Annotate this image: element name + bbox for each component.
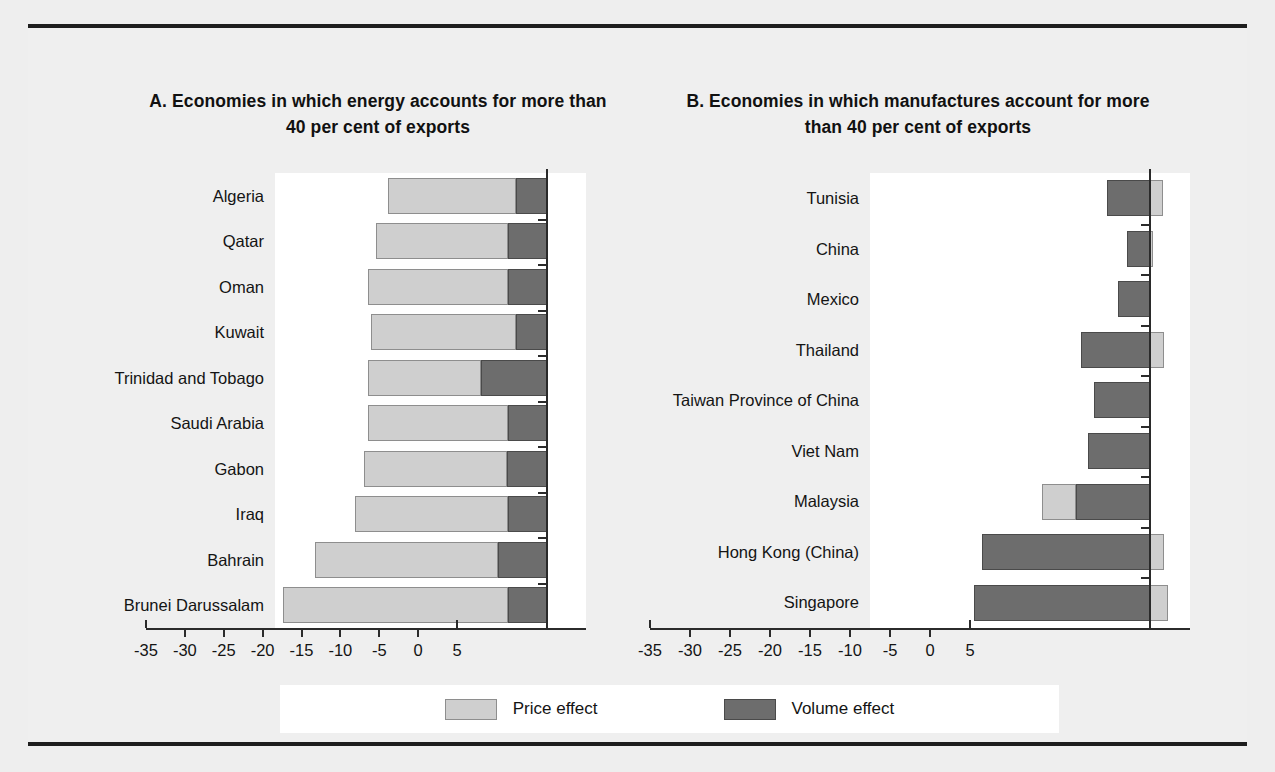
price-effect-bar bbox=[388, 178, 516, 214]
axis-tick-label: 5 bbox=[452, 641, 461, 660]
axis-tick-label: -5 bbox=[883, 641, 898, 660]
axis-tick-label: 0 bbox=[925, 641, 934, 660]
bar-row bbox=[870, 426, 1190, 477]
price-effect-bar bbox=[315, 542, 498, 578]
category-label: Saudi Arabia bbox=[170, 401, 264, 447]
category-label: Qatar bbox=[223, 219, 264, 265]
axis-tick bbox=[809, 628, 811, 637]
axis-tick bbox=[417, 628, 419, 637]
volume-effect-swatch bbox=[724, 699, 776, 720]
volume-effect-bar bbox=[481, 360, 547, 396]
volume-effect-label: Volume effect bbox=[792, 699, 895, 719]
category-label: Bahrain bbox=[207, 537, 264, 583]
axis-tick-label: 0 bbox=[414, 641, 423, 660]
axis-tick bbox=[339, 628, 341, 637]
category-label: Kuwait bbox=[214, 310, 264, 356]
bar-row bbox=[275, 173, 586, 219]
volume-effect-bar bbox=[508, 223, 547, 259]
category-label: Mexico bbox=[807, 277, 859, 323]
figure-frame: A. Economies in which energy accounts fo… bbox=[28, 24, 1247, 746]
price-effect-swatch bbox=[445, 699, 497, 720]
bar-row bbox=[275, 446, 586, 492]
volume-effect-bar bbox=[507, 451, 547, 487]
price-effect-bar bbox=[283, 587, 508, 623]
panel-a-chart: AlgeriaQatarOmanKuwaitTrinidad and Tobag… bbox=[146, 173, 586, 628]
bar-row bbox=[870, 577, 1190, 628]
volume-effect-bar bbox=[1088, 433, 1150, 469]
axis-tick bbox=[145, 620, 147, 628]
category-label: Trinidad and Tobago bbox=[114, 355, 264, 401]
volume-effect-bar bbox=[516, 178, 547, 214]
panel-b-chart: TunisiaChinaMexicoThailandTaiwan Provinc… bbox=[650, 173, 1190, 628]
bar-row bbox=[275, 219, 586, 265]
price-effect-bar bbox=[1150, 585, 1168, 621]
axis-tick bbox=[889, 628, 891, 637]
panel-b-title: B. Economies in which manufactures accou… bbox=[668, 88, 1168, 140]
bar-row bbox=[870, 375, 1190, 426]
axis-tick bbox=[849, 628, 851, 637]
volume-effect-bar bbox=[508, 587, 547, 623]
legend-item-price: Price effect bbox=[445, 699, 598, 720]
category-label: Algeria bbox=[213, 173, 264, 219]
bar-row bbox=[870, 274, 1190, 325]
axis-tick-label: -20 bbox=[251, 641, 275, 660]
panel-a-axis: -35-30-25-20-15-10-505 bbox=[146, 628, 586, 674]
category-label: Taiwan Province of China bbox=[673, 378, 859, 424]
volume-effect-bar bbox=[508, 405, 547, 441]
panel-b-axis: -35-30-25-20-15-10-505 bbox=[650, 628, 1190, 674]
volume-effect-bar bbox=[1118, 281, 1150, 317]
volume-effect-bar bbox=[508, 496, 547, 532]
panel-b-plot-area bbox=[870, 173, 1190, 628]
axis-tick bbox=[223, 628, 225, 637]
axis-tick bbox=[184, 628, 186, 637]
price-effect-bar bbox=[376, 223, 508, 259]
axis-tick bbox=[929, 628, 931, 637]
bar-row bbox=[275, 492, 586, 538]
panel-b-category-labels: TunisiaChinaMexicoThailandTaiwan Provinc… bbox=[650, 173, 870, 628]
category-label: Gabon bbox=[214, 446, 264, 492]
bar-row bbox=[275, 264, 586, 310]
axis-tick-label: -35 bbox=[638, 641, 662, 660]
price-effect-bar bbox=[1150, 534, 1164, 570]
panel-a-bars bbox=[275, 173, 586, 628]
axis-tick bbox=[301, 628, 303, 637]
bar-row bbox=[275, 310, 586, 356]
panel-a-title: A. Economies in which energy accounts fo… bbox=[138, 88, 618, 140]
axis-tick bbox=[729, 628, 731, 637]
category-label: Malaysia bbox=[794, 479, 859, 525]
price-effect-bar bbox=[364, 451, 506, 487]
volume-effect-bar bbox=[1094, 382, 1150, 418]
price-effect-bar bbox=[1150, 332, 1164, 368]
axis-tick-label: -30 bbox=[173, 641, 197, 660]
category-label: Thailand bbox=[796, 327, 859, 373]
panel-a-axis-line bbox=[146, 628, 586, 630]
price-effect-label: Price effect bbox=[513, 699, 598, 719]
category-label: Iraq bbox=[236, 492, 264, 538]
bar-row bbox=[870, 527, 1190, 578]
axis-tick-label: 5 bbox=[965, 641, 974, 660]
volume-effect-bar bbox=[974, 585, 1150, 621]
bar-row bbox=[275, 583, 586, 629]
price-effect-bar bbox=[368, 269, 508, 305]
price-effect-bar bbox=[1150, 180, 1163, 216]
axis-tick-label: -25 bbox=[718, 641, 742, 660]
volume-effect-bar bbox=[516, 314, 547, 350]
axis-tick bbox=[969, 620, 971, 628]
axis-tick bbox=[649, 620, 651, 628]
axis-tick-label: -30 bbox=[678, 641, 702, 660]
volume-effect-bar bbox=[508, 269, 547, 305]
category-label: China bbox=[816, 226, 859, 272]
panel-a-zero-line bbox=[546, 169, 548, 630]
bar-row bbox=[275, 355, 586, 401]
bar-row bbox=[275, 401, 586, 447]
price-effect-bar bbox=[1042, 484, 1076, 520]
volume-effect-bar bbox=[982, 534, 1150, 570]
volume-effect-bar bbox=[498, 542, 547, 578]
axis-tick-label: -20 bbox=[758, 641, 782, 660]
axis-tick-label: -10 bbox=[328, 641, 352, 660]
price-effect-bar bbox=[355, 496, 508, 532]
bar-row bbox=[870, 476, 1190, 527]
axis-tick-label: -5 bbox=[372, 641, 387, 660]
axis-tick bbox=[769, 628, 771, 637]
price-effect-bar bbox=[368, 360, 481, 396]
